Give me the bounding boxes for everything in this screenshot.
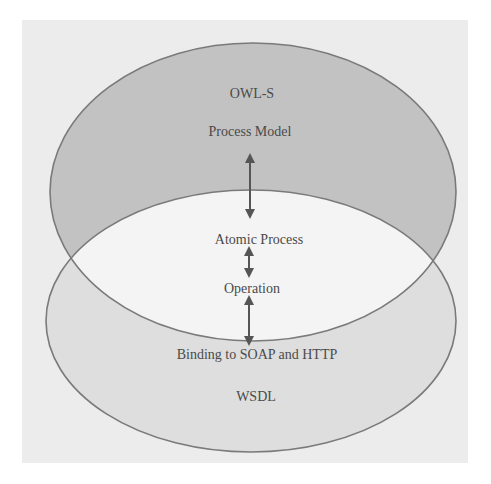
owls-wsdl-diagram: OWL-S Process Model Atomic Process Opera… [0,0,491,484]
atomic-process-label: Atomic Process [215,232,303,247]
operation-label: Operation [224,281,280,296]
process-model-label: Process Model [209,124,292,139]
wsdl-label: WSDL [236,389,276,404]
owl-s-label: OWL-S [230,86,274,101]
binding-soap-http-label: Binding to SOAP and HTTP [177,347,338,362]
